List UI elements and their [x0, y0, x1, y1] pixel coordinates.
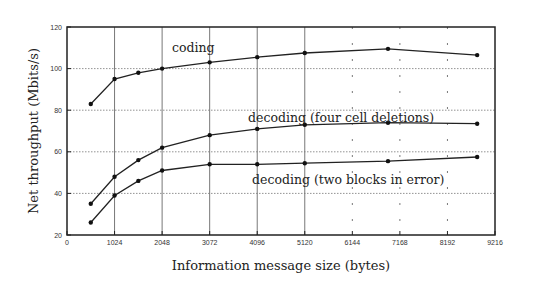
y-tick-label: 80: [54, 107, 62, 114]
y-tick-label: 120: [50, 24, 62, 31]
grid: [67, 27, 495, 235]
x-tick-label: 3072: [202, 239, 218, 246]
y-axis-title: Net throughput (Mbits/s): [26, 48, 41, 214]
data-point: [160, 145, 164, 149]
series-layer: [89, 47, 480, 225]
data-point: [89, 102, 93, 106]
data-point: [386, 159, 390, 163]
x-tick-label: 8192: [440, 239, 456, 246]
series-label-four-cell-deletions: decoding (four cell deletions): [248, 110, 434, 125]
data-point: [136, 158, 140, 162]
x-axis-title: Information message size (bytes): [172, 258, 390, 273]
data-point: [207, 162, 211, 166]
data-point: [160, 168, 164, 172]
data-point: [303, 51, 307, 55]
series-label-two-blocks-in-error: decoding (two blocks in error): [252, 172, 444, 187]
y-tick-label: 60: [54, 148, 62, 155]
series-line: [91, 49, 477, 104]
x-tick-label: 6144: [345, 239, 361, 246]
data-point: [112, 175, 116, 179]
x-axis-ticks: 0102420483072409651206144716881929216: [65, 231, 503, 246]
data-point: [255, 162, 259, 166]
x-tick-label: 2048: [154, 239, 170, 246]
x-tick-label: 9216: [487, 239, 503, 246]
data-point: [89, 220, 93, 224]
data-point: [160, 66, 164, 70]
x-tick-label: 5120: [297, 239, 313, 246]
x-tick-label: 1024: [107, 239, 123, 246]
data-point: [112, 193, 116, 197]
data-point: [136, 179, 140, 183]
data-point: [89, 202, 93, 206]
line-chart: 0102420483072409651206144716881929216 20…: [0, 0, 533, 290]
data-point: [136, 71, 140, 75]
data-point: [475, 155, 479, 159]
data-point: [255, 55, 259, 59]
x-tick-label: 0: [65, 239, 69, 246]
data-point: [386, 47, 390, 51]
data-point: [303, 161, 307, 165]
x-tick-label: 7168: [392, 239, 408, 246]
data-point: [475, 122, 479, 126]
series-label-coding: coding: [172, 40, 215, 55]
y-tick-label: 20: [54, 232, 62, 239]
y-axis-ticks: 20406080100120: [50, 24, 71, 239]
data-point: [207, 133, 211, 137]
data-point: [207, 60, 211, 64]
series-line: [91, 157, 477, 223]
data-point: [475, 53, 479, 57]
y-tick-label: 40: [54, 190, 62, 197]
plot-frame: [67, 27, 495, 235]
x-tick-label: 4096: [249, 239, 265, 246]
data-point: [255, 127, 259, 131]
y-tick-label: 100: [50, 65, 62, 72]
data-point: [112, 77, 116, 81]
